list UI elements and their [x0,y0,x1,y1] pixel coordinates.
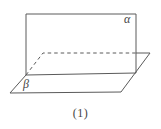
plane-beta-label: β [23,78,29,90]
plane-alpha-rectangle [26,14,136,75]
plane-alpha-label: α [124,13,130,25]
plane-beta-hidden-dashed-edges [26,53,136,75]
figure-caption: (1) [0,106,161,121]
geometry-figure: α β (1) [0,0,161,129]
